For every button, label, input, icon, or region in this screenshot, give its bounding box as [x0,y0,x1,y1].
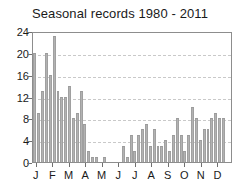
bar [191,107,194,162]
x-tick-mark [135,163,136,167]
bar [68,86,71,162]
bar [72,118,75,162]
bar [218,118,221,162]
bar [157,146,160,162]
x-tick-label: J [126,169,144,181]
x-tick-mark [85,163,86,167]
bar [203,129,206,162]
bar [122,146,125,162]
bar [145,124,148,162]
x-tick-mark [102,163,103,167]
bar [210,118,213,162]
y-tick-mark [27,98,32,99]
bar [222,118,225,162]
bar [41,91,44,162]
bar [172,135,175,162]
y-tick-label: 16 [3,70,29,82]
bar [141,129,144,162]
bar [133,151,136,162]
y-tick-mark [27,32,32,33]
bar [149,146,152,162]
x-tick-label: A [76,169,94,181]
bar [160,146,163,162]
bar [57,91,60,162]
x-tick-mark [217,163,218,167]
y-tick-label: 24 [3,26,29,38]
bar [195,118,198,162]
seasonal-records-chart: Seasonal records 1980 - 2011 04812162024… [0,0,240,189]
bar [183,151,186,162]
y-tick-mark [27,141,32,142]
bar [45,53,48,162]
bar [49,75,52,162]
x-tick-label: M [93,169,111,181]
bar [60,97,63,163]
bar [180,135,183,162]
bar [33,53,36,162]
bar [91,157,94,162]
bar [53,36,56,162]
x-tick-mark [168,163,169,167]
x-tick-label: D [208,169,226,181]
y-tick-label: 8 [3,113,29,125]
bar [207,129,210,162]
bar [76,113,79,162]
x-tick-label: S [159,169,177,181]
bar [199,140,202,162]
x-tick-mark [36,163,37,167]
x-tick-mark [69,163,70,167]
bar [176,118,179,162]
bar [214,113,217,162]
bar [80,91,83,162]
bar [103,157,106,162]
x-tick-label: O [175,169,193,181]
bar [83,124,86,162]
bar [164,140,167,162]
y-tick-mark [27,76,32,77]
bar [87,151,90,162]
y-tick-label: 0 [3,157,29,169]
bar [64,97,67,163]
y-tick-mark [27,54,32,55]
y-tick-label: 20 [3,48,29,60]
bar [137,135,140,162]
bar [130,135,133,162]
x-tick-mark [151,163,152,167]
x-tick-label: J [109,169,127,181]
x-tick-label: J [27,169,45,181]
y-tick-mark [27,119,32,120]
bar [153,129,156,162]
bar-series [33,33,231,162]
bar [168,151,171,162]
y-tick-label: 12 [3,92,29,104]
bar [95,157,98,162]
x-tick-label: N [192,169,210,181]
x-tick-label: M [60,169,78,181]
y-tick-label: 4 [3,135,29,147]
y-tick-mark [27,163,32,164]
x-tick-mark [118,163,119,167]
x-tick-mark [201,163,202,167]
plot-area [32,32,232,163]
x-tick-label: A [142,169,160,181]
x-tick-mark [184,163,185,167]
x-tick-mark [52,163,53,167]
bar [37,113,40,162]
bar [187,135,190,162]
bar [126,157,129,162]
chart-title: Seasonal records 1980 - 2011 [0,6,240,21]
